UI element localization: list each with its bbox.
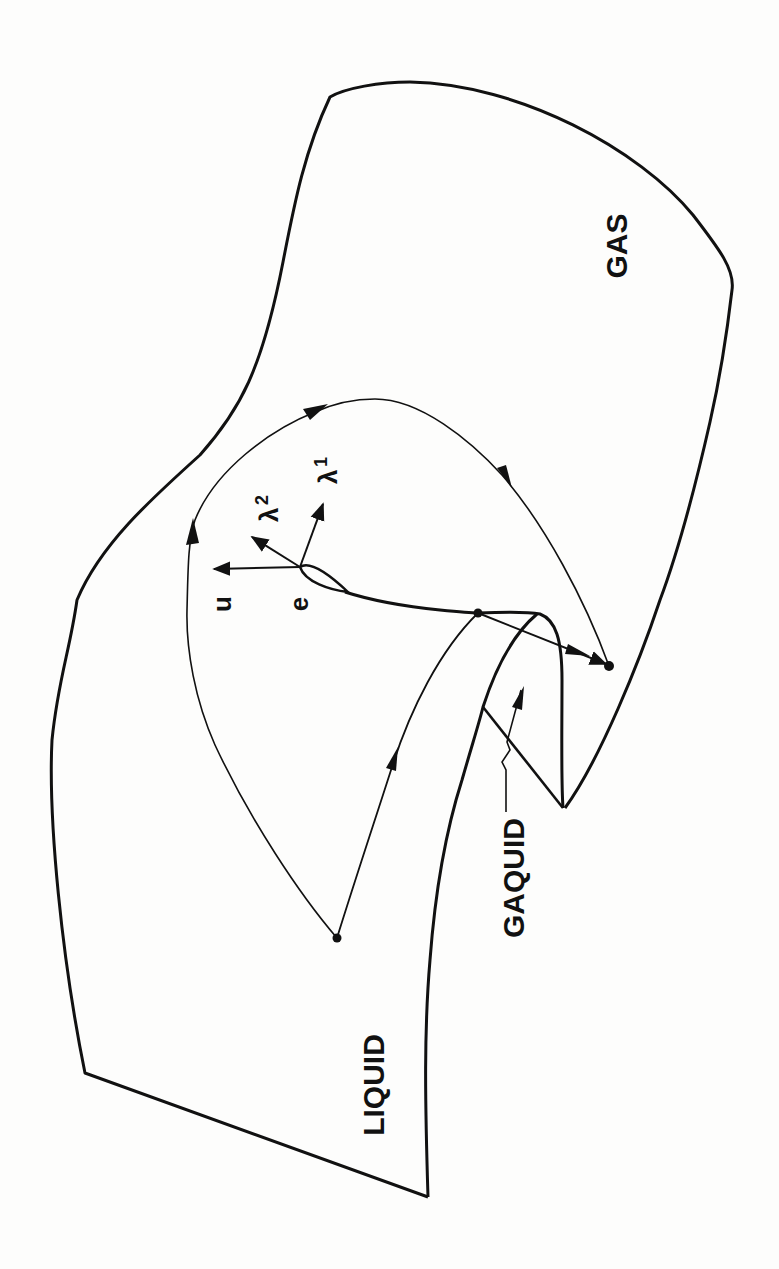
phase-surface-svg: GAS LIQUID GAQUID u e λ 2 λ 1 [0,0,779,1269]
e-label: e [284,597,314,611]
end-point [604,661,614,671]
gaquid-label: GAQUID [497,818,530,938]
lambda2-symbol: λ [254,507,284,522]
lambda2-subscript: 2 [252,495,272,505]
u-vector [214,567,300,569]
junction-point [474,609,483,618]
lambda1-label: λ 1 [311,457,343,484]
gaquid-pointer-head [512,686,524,710]
u-label: u [207,596,237,612]
liquid-label: LIQUID [357,1034,390,1136]
diagram-canvas: GAS LIQUID GAQUID u e λ 2 λ 1 [0,0,779,1269]
fold-diagonal [483,707,563,808]
direct-path [337,613,478,938]
loop-arrow-top [303,404,328,420]
direct-arrow [386,747,398,771]
e-lens [300,565,348,592]
lambda1-subscript: 1 [311,457,331,467]
double-arrow-head [565,644,590,656]
gas-label: GAS [600,213,633,278]
coexistence-curve [345,592,478,613]
start-point [333,934,342,943]
loop-arrow-left [186,518,199,545]
loop-arrow-right [497,465,512,488]
lambda1-vector [300,504,323,567]
junction-to-end-arrow [478,613,606,664]
lambda2-vector [252,537,300,567]
lambda2-label: λ 2 [252,495,284,522]
thin-loop-path [187,399,609,938]
lambda1-symbol: λ [313,469,343,484]
